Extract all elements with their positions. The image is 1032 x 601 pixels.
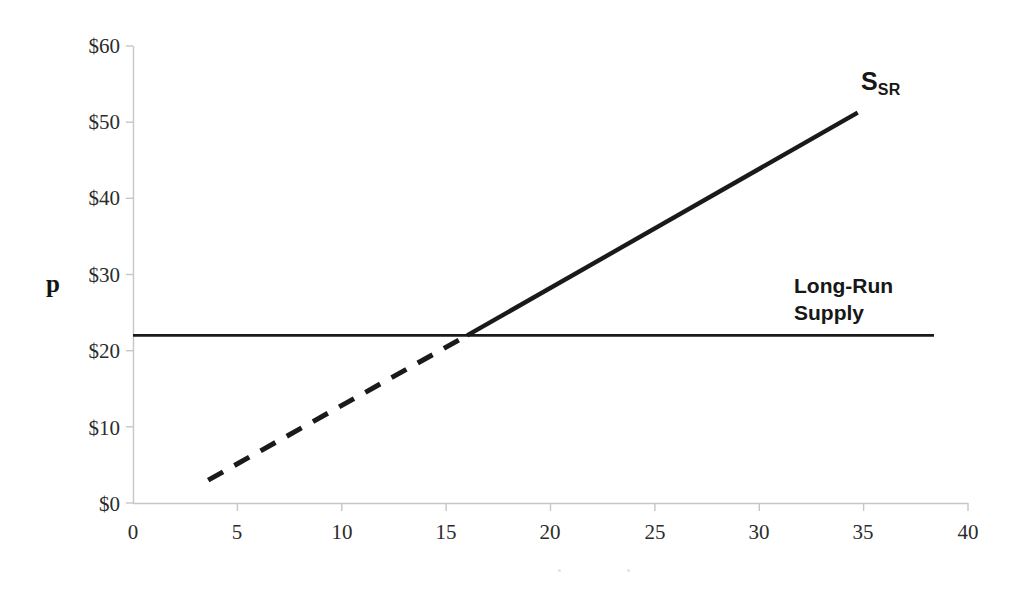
y-tick-label-0: $0 <box>58 494 120 515</box>
y-tick-label-50: $50 <box>58 112 120 133</box>
y-tick-label-60: $60 <box>58 36 120 57</box>
y-tick-label-10: $10 <box>58 418 120 439</box>
x-tick-label-5: 5 <box>217 522 257 543</box>
y-tick-label-30: $30 <box>58 265 120 286</box>
chart-canvas: p $60 $50 $40 $30 $20 $10 $0 0 5 10 15 2… <box>0 0 1032 601</box>
x-tick-label-40: 40 <box>948 522 988 543</box>
ssr-label-subscript: SR <box>878 81 901 98</box>
x-tick-label-30: 30 <box>739 522 779 543</box>
x-tick-label-20: 20 <box>530 522 570 543</box>
x-tick-label-15: 15 <box>426 522 466 543</box>
y-axis-ticks <box>126 46 133 503</box>
y-tick-label-20: $20 <box>58 341 120 362</box>
x-tick-label-0: 0 <box>113 522 153 543</box>
axis-title-artifact-right <box>627 569 630 572</box>
x-tick-label-10: 10 <box>322 522 362 543</box>
ssr-label-base: S <box>861 67 878 95</box>
long-run-supply-label-line2: Supply <box>794 299 893 326</box>
long-run-supply-label-line1: Long-Run <box>794 272 893 299</box>
x-tick-label-35: 35 <box>843 522 883 543</box>
long-run-supply-label: Long-Run Supply <box>794 272 893 327</box>
ssr-curve-label: SSR <box>861 69 901 94</box>
axis-title-artifact-left <box>558 569 561 572</box>
x-tick-label-25: 25 <box>635 522 675 543</box>
y-tick-label-40: $40 <box>58 188 120 209</box>
short-run-supply-dashed-segment <box>208 335 467 480</box>
x-axis-ticks <box>237 503 968 511</box>
